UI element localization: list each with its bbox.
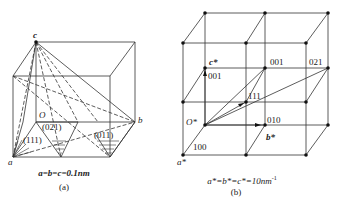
caption-a: (a)	[52, 183, 76, 192]
vector-label-001-upper: 001	[270, 58, 284, 67]
label-O-star: O*	[186, 118, 197, 127]
equation-b: a*=b*=c*=10nm-1	[205, 175, 279, 186]
plane-label-011: (011)	[94, 131, 113, 140]
vector-label-111: 111	[248, 92, 261, 101]
equation-a: a=b=c=0.1nm	[34, 169, 94, 178]
label-O: O	[39, 111, 46, 120]
vector-label-021: 021	[309, 58, 323, 67]
vector-label-001-lower: 001	[208, 72, 222, 81]
label-b-star: b*	[266, 133, 275, 142]
caption-b: (b)	[224, 188, 248, 197]
equation-b-text: a*=b*=c*=10nm	[207, 176, 272, 186]
vector-label-010: 010	[267, 116, 281, 125]
lattice-nodes	[181, 11, 330, 157]
label-a-star: a*	[177, 158, 186, 167]
equation-b-sup: -1	[272, 175, 277, 181]
label-a: a	[8, 158, 13, 167]
plane-label-021: (021)	[42, 123, 62, 132]
label-c: c	[33, 31, 37, 40]
point-c	[34, 40, 38, 44]
label-b: b	[138, 116, 143, 125]
plane-label-111: (111)	[23, 136, 42, 145]
label-c-star: c*	[209, 58, 218, 67]
vector-label-100: 100	[193, 143, 207, 152]
